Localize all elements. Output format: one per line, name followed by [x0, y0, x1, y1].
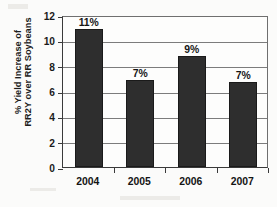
y-axis-tick	[58, 93, 63, 94]
bar-value-label: 7%	[236, 70, 251, 81]
y-axis-tick	[58, 17, 63, 18]
y-axis-tick-label: 6	[15, 87, 55, 98]
y-axis-tick-label: 0	[15, 163, 55, 174]
y-axis-tick	[58, 67, 63, 68]
y-axis-tick	[58, 42, 63, 43]
bar	[229, 82, 257, 167]
y-axis-title: % Yield Increase of RR2Y over RR Soybean…	[7, 0, 39, 157]
bar	[75, 29, 103, 167]
bar	[126, 80, 154, 167]
x-axis-category-label: 2004	[76, 176, 99, 187]
y-axis-tick-label: 4	[15, 112, 55, 123]
y-axis-tick	[58, 169, 63, 170]
x-axis-category-label: 2005	[128, 176, 151, 187]
y-axis-tick-label: 10	[15, 36, 55, 47]
scan-artifact	[120, 196, 180, 200]
x-axis-tick	[165, 168, 166, 173]
bar-value-label: 9%	[184, 44, 199, 55]
bar-value-label: 7%	[133, 68, 148, 79]
y-axis-tick	[58, 118, 63, 119]
plot-area: 11%7%9%7%	[62, 16, 268, 168]
bar	[178, 56, 206, 167]
bar-value-label: 11%	[79, 17, 99, 28]
y-axis-tick-label: 2	[15, 137, 55, 148]
x-axis-category-label: 2007	[231, 176, 254, 187]
x-axis-tick	[268, 168, 269, 173]
x-axis-tick	[114, 168, 115, 173]
y-axis-tick	[58, 143, 63, 144]
chart-figure: % Yield Increase of RR2Y over RR Soybean…	[0, 0, 277, 207]
x-axis-category-label: 2006	[179, 176, 202, 187]
scan-artifact	[30, 188, 56, 191]
y-axis-tick-label: 8	[15, 61, 55, 72]
y-axis-tick-label: 12	[15, 11, 55, 22]
x-axis-tick	[217, 168, 218, 173]
